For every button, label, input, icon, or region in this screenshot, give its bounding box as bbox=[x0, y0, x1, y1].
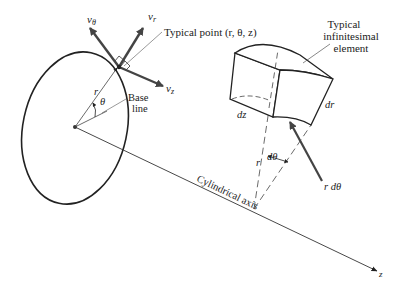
v-r-arrow bbox=[119, 28, 143, 67]
base-line-label-1: Base bbox=[128, 92, 149, 103]
v-theta-arrow bbox=[90, 28, 119, 67]
v-z-arrow bbox=[119, 67, 163, 86]
cylindrical-axis-line bbox=[75, 127, 377, 271]
r-dtheta-arrow bbox=[290, 122, 322, 181]
z-axis-label: z bbox=[378, 269, 383, 279]
dz-label: dz bbox=[237, 109, 246, 120]
theta-label: θ bbox=[100, 96, 105, 107]
theta-arc bbox=[93, 103, 96, 117]
element-label-1: Typical bbox=[328, 18, 361, 30]
radius-label: r bbox=[94, 86, 99, 97]
dr-label: dr bbox=[325, 99, 335, 110]
cylindrical-axis-label: Cylindrical axis bbox=[195, 173, 260, 212]
typical-point-label: Typical point (r, θ, z) bbox=[164, 26, 257, 39]
radial-dashed-line-2 bbox=[254, 125, 311, 209]
v-theta-label: vθ bbox=[87, 13, 96, 27]
v-r-label: vr bbox=[148, 10, 157, 24]
cylindrical-axis-group: Cylindrical axis z bbox=[75, 127, 383, 279]
infinitesimal-element-group: Typical infinitesimal element dz dr r dθ… bbox=[230, 18, 379, 209]
cylindrical-coordinates-diagram: vθ vr vz Typical point (r, θ, z) r θ Bas… bbox=[0, 0, 401, 289]
element-label-2: infinitesimal bbox=[323, 30, 379, 42]
base-line bbox=[75, 111, 107, 127]
radius-line bbox=[75, 68, 117, 127]
element-leader bbox=[303, 44, 330, 63]
base-line-leader bbox=[102, 99, 126, 113]
typical-point bbox=[117, 65, 121, 69]
element-right-face bbox=[273, 70, 333, 125]
v-z-label: vz bbox=[166, 82, 175, 96]
base-line-label-2: line bbox=[132, 103, 148, 114]
element-label-3: element bbox=[334, 42, 369, 54]
dtheta-label: dθ bbox=[267, 151, 277, 162]
r-dtheta-label: r dθ bbox=[324, 181, 341, 192]
r-label: r bbox=[256, 157, 261, 168]
